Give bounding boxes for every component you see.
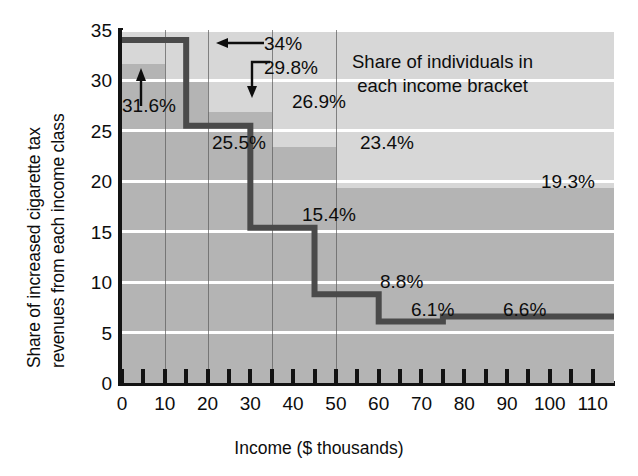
value-label-15-4: 15.4% xyxy=(302,205,356,224)
y-tick-label: 25 xyxy=(52,122,112,141)
value-label-29-8: 29.8% xyxy=(264,58,318,77)
value-label-34: 34% xyxy=(264,34,302,53)
y-tick-label: 15 xyxy=(52,223,112,242)
arrow-to-29-8-percent xyxy=(238,58,272,98)
y-axis-label-line1: Share of increased cigarette tax xyxy=(24,127,45,368)
value-label-26-9: 26.9% xyxy=(292,92,346,111)
y-tick-label: 20 xyxy=(52,172,112,191)
chart-annotation: Share of individuals in each income brac… xyxy=(352,50,533,97)
value-label-6-6: 6.6% xyxy=(503,300,546,319)
y-tick-label: 35 xyxy=(52,21,112,40)
value-label-19-3: 19.3% xyxy=(541,172,595,191)
chart-figure: Share of increased cigarette tax revenue… xyxy=(0,0,638,476)
value-label-23-4: 23.4% xyxy=(360,133,414,152)
y-tick-label: 30 xyxy=(52,71,112,90)
value-label-25-5: 25.5% xyxy=(212,133,266,152)
value-label-6-1: 6.1% xyxy=(411,300,454,319)
y-tick-label: 0 xyxy=(52,374,112,393)
y-tick-label: 10 xyxy=(52,273,112,292)
arrow-to-31-6-percent xyxy=(132,68,150,106)
x-tick-label: 110 xyxy=(567,394,619,413)
annotation-line1: Share of individuals in xyxy=(352,50,533,74)
arrow-to-34-percent xyxy=(216,36,266,52)
y-tick-label: 5 xyxy=(52,324,112,343)
x-axis-label: Income ($ thousands) xyxy=(0,438,638,459)
value-label-8-8: 8.8% xyxy=(380,272,423,291)
annotation-line2: each income bracket xyxy=(352,74,533,98)
